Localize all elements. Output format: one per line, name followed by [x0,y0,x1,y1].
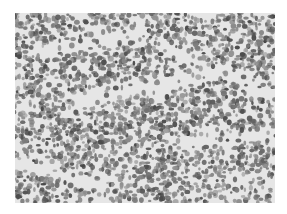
tissue-texture [15,13,275,203]
histology-micrograph [15,13,275,203]
